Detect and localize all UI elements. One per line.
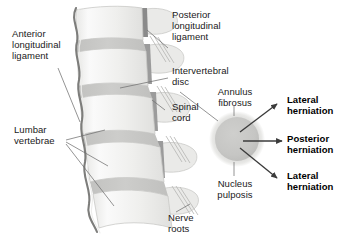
label-nucleus-pulposis: Nucleus pulposis (206, 178, 264, 200)
figure-canvas: Anterior longitudinal ligament Lumbar ve… (0, 0, 345, 248)
label-intervertebral-disc: Intervertebral disc (172, 65, 229, 87)
vertebra-body-4 (85, 142, 164, 182)
label-spinal-cord: Spinal cord (172, 101, 199, 123)
leader-anterior-longitudinal-ligament (58, 68, 80, 122)
vertebra-body-2 (77, 48, 148, 86)
nucleus-pulposus-core (215, 117, 259, 161)
vertebra-body-3 (80, 94, 155, 134)
vertebra-body-1 (76, 6, 143, 41)
label-posterior-herniation: Posterior herniation (287, 133, 333, 155)
label-annulus-fibrosus: Annulus fibrosus (206, 86, 264, 108)
label-nerve-roots: Nerve roots (168, 212, 194, 234)
label-lateral-herniation-lower: Lateral herniation (287, 170, 333, 192)
vertebra-body-5 (93, 190, 172, 228)
label-posterior-longitudinal-ligament: Posterior longitudinal ligament (172, 9, 221, 42)
label-lateral-herniation-upper: Lateral herniation (287, 94, 333, 116)
label-anterior-longitudinal-ligament: Anterior longitudinal ligament (12, 28, 61, 61)
label-lumbar-vertebrae: Lumbar vertebrae (14, 124, 55, 146)
